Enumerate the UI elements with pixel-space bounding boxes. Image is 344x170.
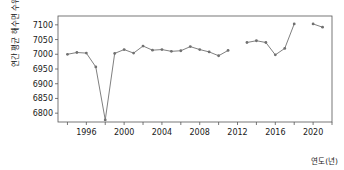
data-point-marker [76, 51, 79, 54]
data-point-marker [123, 48, 126, 51]
x-tick-label: 2016 [265, 128, 285, 137]
data-point-marker [312, 23, 315, 26]
data-point-marker [142, 45, 145, 48]
data-point-marker [66, 53, 69, 56]
data-point-marker [227, 49, 230, 52]
y-tick-label: 7050 [33, 36, 53, 45]
data-point-marker [293, 23, 296, 26]
chart-figure: 6800685069006950700070507100 19962000200… [0, 0, 344, 170]
data-point-marker [94, 66, 97, 69]
data-point-marker [217, 54, 220, 57]
x-tick-label: 2020 [303, 128, 323, 137]
y-tick-label: 6900 [33, 80, 53, 89]
data-point-marker [208, 51, 211, 54]
y-tick-label: 6800 [33, 109, 53, 118]
y-axis-title: 연간 평균 해수면 수위(mm) [12, 0, 20, 78]
data-point-marker [274, 53, 277, 56]
data-point-marker [255, 39, 258, 42]
data-point-marker [170, 50, 173, 53]
data-point-marker [151, 49, 154, 52]
y-tick-label: 6850 [33, 94, 53, 103]
data-point-marker [104, 119, 107, 122]
data-point-marker [283, 47, 286, 50]
data-point-marker [246, 41, 249, 44]
data-point-marker [179, 49, 182, 52]
x-tick-label: 2004 [152, 128, 172, 137]
x-tick-label: 1996 [76, 128, 96, 137]
x-tick-label: 2008 [190, 128, 210, 137]
x-tick-label: 2012 [227, 128, 247, 137]
data-point-marker [321, 26, 324, 29]
y-tick-label: 7000 [33, 50, 53, 59]
y-tick-label: 7100 [33, 21, 53, 30]
data-point-marker [161, 48, 164, 51]
data-point-marker [85, 52, 88, 55]
y-tick-label: 6950 [33, 65, 53, 74]
data-point-marker [198, 48, 201, 51]
x-axis-title: 연도(년) [311, 155, 338, 166]
data-point-marker [113, 52, 116, 55]
line-chart-plot: 6800685069006950700070507100 19962000200… [0, 0, 344, 170]
x-tick-label: 2000 [114, 128, 134, 137]
data-point-marker [132, 52, 135, 55]
data-point-marker [264, 41, 267, 44]
data-point-marker [189, 45, 192, 48]
